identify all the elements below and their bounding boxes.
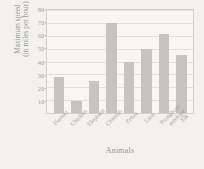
y-axis-title-line-1: Maximum speed (14, 4, 22, 53)
y-axis-tick-mark (44, 88, 46, 89)
x-tick-slot: Zebra (120, 115, 138, 145)
y-axis-tick-mark (44, 75, 46, 76)
bar-slot (173, 10, 191, 113)
bar-chart: Maximum speed (in miles per hour) 102030… (0, 0, 204, 169)
y-axis-tick-label: 70 (30, 19, 44, 26)
y-axis-tick-label: 30 (30, 71, 44, 78)
bar-slot (68, 10, 86, 113)
x-axis-ticks: HumanChickenElephantCheetahZebraLionPron… (46, 115, 194, 145)
x-tick-slot: Lion (138, 115, 156, 145)
y-axis-tick-label: 50 (30, 45, 44, 52)
y-axis-tick-mark (44, 9, 46, 10)
bar-slot (155, 10, 173, 113)
bar-slot (103, 10, 121, 113)
bar (124, 62, 135, 114)
bar-slot (120, 10, 138, 113)
x-tick-slot: Cheetah (102, 115, 120, 145)
y-axis-tick-label: 80 (30, 6, 44, 13)
x-tick-slot: Chicken (67, 115, 85, 145)
y-axis-tick-label: 40 (30, 58, 44, 65)
x-tick-slot: Elk (173, 115, 191, 145)
bar (106, 23, 117, 113)
bar (159, 34, 170, 113)
y-axis-tick-label: 10 (30, 97, 44, 104)
y-axis-tick-mark (44, 62, 46, 63)
y-axis-tick-mark (44, 48, 46, 49)
bar-slot (138, 10, 156, 113)
x-tick-slot: Human (49, 115, 67, 145)
y-axis-tick-mark (44, 101, 46, 102)
bar (141, 49, 152, 113)
y-axis-tick-label: 60 (30, 32, 44, 39)
x-axis-tick-label: Elk (179, 113, 190, 124)
plot-wrapper: 1020304050607080 (46, 9, 194, 114)
x-axis-title: Animals (46, 146, 194, 155)
bar-slot (50, 10, 68, 113)
y-axis-tick-label: 20 (30, 84, 44, 91)
y-axis-tick-mark (44, 22, 46, 23)
x-tick-slot: Pronghorn antelope (156, 115, 174, 145)
bar-slot (85, 10, 103, 113)
x-tick-slot: Elephant (85, 115, 103, 145)
plot-area (46, 9, 194, 114)
y-axis-tick-mark (44, 35, 46, 36)
bar (54, 77, 65, 113)
bar-series (47, 10, 193, 113)
